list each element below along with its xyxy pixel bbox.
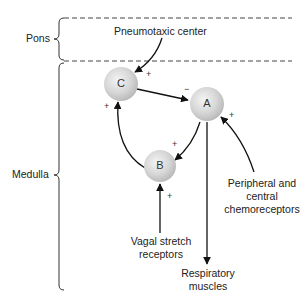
- vagal-stretch-label: Vagal stretch receptors: [126, 235, 196, 261]
- pneumotaxic-center-label: Pneumotaxic center: [114, 25, 207, 38]
- sign-pneumo-to-c: +: [146, 69, 151, 79]
- region-label-medulla: Medulla: [12, 168, 49, 181]
- arrow-b-to-c: [118, 102, 145, 168]
- node-b-label: B: [150, 159, 170, 171]
- resp-line-2: muscles: [177, 280, 239, 293]
- vagal-line-2: receptors: [126, 248, 196, 261]
- arrow-c-to-a: [137, 89, 188, 100]
- arrow-a-to-b: [175, 122, 200, 160]
- sign-c-to-a: −: [184, 84, 189, 94]
- node-c-label: C: [111, 77, 131, 89]
- respiratory-muscles-label: Respiratory muscles: [177, 267, 239, 293]
- node-a-label: A: [197, 97, 217, 109]
- sign-vagal-to-b: +: [167, 191, 172, 201]
- chemo-line-3: chemoreceptors: [222, 203, 302, 216]
- sign-chemo-to-a: +: [229, 110, 234, 120]
- chemo-line-2: central: [222, 190, 302, 203]
- arrow-pneumotaxic-to-c: [135, 38, 162, 72]
- resp-line-1: Respiratory: [177, 267, 239, 280]
- sign-a-to-b: +: [172, 139, 177, 149]
- vagal-line-1: Vagal stretch: [126, 235, 196, 248]
- pons-brace: [54, 18, 64, 60]
- sign-b-to-c: +: [104, 101, 109, 111]
- arrow-chemo-to-a: [221, 117, 254, 172]
- chemoreceptors-label: Peripheral and central chemoreceptors: [222, 177, 302, 216]
- chemo-line-1: Peripheral and: [222, 177, 302, 190]
- region-label-pons: Pons: [26, 32, 50, 45]
- medulla-brace: [54, 63, 64, 290]
